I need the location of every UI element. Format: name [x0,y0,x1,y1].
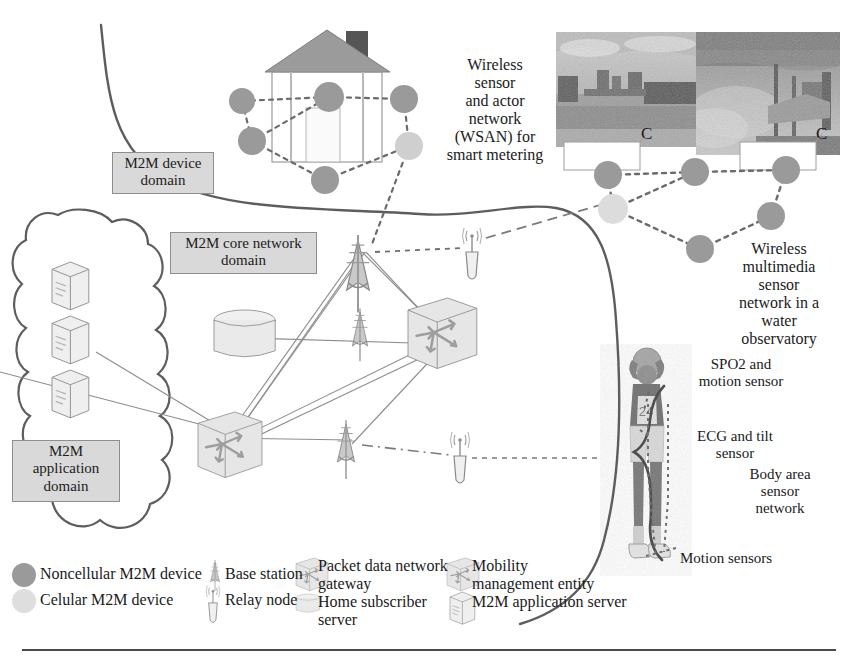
annotation-wsan: Wireless sensor and actor network (WSAN)… [424,56,566,163]
sensor-node [757,202,785,230]
legend-label-home-subscriber-server: Home subscriber server [318,593,440,628]
sensor-node [229,88,255,114]
base-station-icon [211,560,220,591]
annotation-wsan-line-2: sensor [424,74,566,92]
legend-label-relay-node: Relay node [225,591,297,609]
sensor-node [681,158,709,186]
annotation-wmsn: Wireless multimedia sensor network in a … [716,240,842,347]
annotation-motion-sensors-line-1: Motion sensors [680,550,830,567]
annotation-spo2: SPO2 and motion sensor [676,356,806,390]
domain-label-core-line1: M2M core network [185,235,302,251]
sensor-node [594,161,622,189]
domain-label-device-line1: M2M device [124,155,201,171]
m2m-application-server-1 [52,262,89,310]
annotation-wmsn-line-5: water [716,312,842,330]
legend-label-packet-data-network-gateway: Packet data network gateway [318,557,454,592]
photo-callout-right-label: C [816,124,827,144]
relay-node-icon [206,586,220,623]
legend-label-noncellular-m2m-device: Noncellular M2M device [40,565,202,583]
bs-to-relay-lower-link [362,445,450,455]
base-station-tall [347,235,370,313]
annotation-ban-line-2: sensor [728,483,832,500]
m2m-application-server-3 [52,370,89,418]
annotation-wmsn-line-1: Wireless [716,240,842,258]
sensor-node [238,127,266,155]
relay-node-lower [451,432,470,483]
domain-label-application-line2: application [33,460,100,476]
photo-callout-left-label: C [641,124,652,144]
sensor-node [772,156,800,184]
annotation-wmsn-line-4: network in a [716,294,842,312]
annotation-wmsn-line-2: multimedia [716,258,842,276]
home-subscriber-server-core [214,310,275,357]
annotation-wsan-line-3: and actor [424,92,566,110]
annotation-wsan-line-1: Wireless [424,56,566,74]
m2m-application-server-2 [52,316,89,364]
annotation-wmsn-line-3: sensor [716,276,842,294]
annotation-ecg: ECG and tilt sensor [676,428,794,462]
domain-label-device: M2M device domain [112,152,214,194]
domain-label-device-line2: domain [141,172,186,188]
mobility-management-entity-core [408,298,477,369]
legend-label-mobility-management-entity: Mobility management entity [472,557,612,592]
sensor-node [686,235,714,263]
sensor-node [311,166,339,194]
legend-label-base-station: Base station [225,565,303,583]
packet-data-network-gateway-core [198,412,262,478]
domain-label-application-line1: M2M [49,443,83,459]
annotation-wsan-line-5: (WSAN) for [424,128,566,146]
base-station-mid [352,309,367,362]
legend-label-celular-m2m-device: Celular M2M device [40,591,173,609]
annotation-motion-sensors: Motion sensors [680,550,830,567]
sensor-node [395,132,423,160]
annotation-ecg-line-1: ECG and tilt [676,428,794,445]
legend-label-m2m-application-server: M2M application server [472,593,627,611]
domain-label-core-line2: domain [221,252,266,268]
figure-canvas: 24 [0,0,849,662]
celular-m2m-device-icon [12,589,36,613]
annotation-wsan-line-4: network [424,110,566,128]
domain-label-application-line3: domain [44,478,89,494]
relay-node-upper [463,228,482,279]
sensor-node [390,85,418,113]
noncellular-m2m-device-icon [12,563,36,587]
base-station-low [337,420,354,479]
domain-label-application: M2M application domain [12,440,120,502]
domain-label-core: M2M core network domain [170,232,317,274]
ban-sensor-links [640,392,676,556]
annotation-wmsn-line-6: observatory [716,330,842,348]
sensor-node [314,82,344,112]
annotation-spo2-line-1: SPO2 and [676,356,806,373]
annotation-ban-line-1: Body area [728,466,832,483]
bs-to-relay-upper-link [375,248,462,252]
annotation-ecg-line-2: sensor [676,445,794,462]
annotation-ban: Body area sensor network [728,466,832,516]
annotation-ban-line-3: network [728,500,832,517]
annotation-spo2-line-2: motion sensor [676,373,806,390]
sensor-node [598,194,628,224]
home-subscriber-server-icon [296,594,320,612]
annotation-wsan-line-6: smart metering [424,146,566,164]
